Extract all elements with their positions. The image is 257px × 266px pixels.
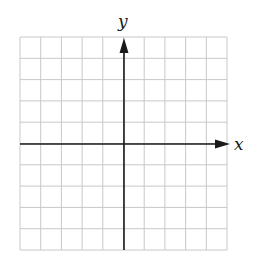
y-axis-arrow-icon bbox=[120, 38, 129, 53]
y-axis-label: y bbox=[117, 11, 128, 31]
x-axis-arrow-icon bbox=[215, 140, 230, 149]
coordinate-plane: x y bbox=[0, 0, 257, 266]
x-axis-label: x bbox=[234, 134, 244, 154]
